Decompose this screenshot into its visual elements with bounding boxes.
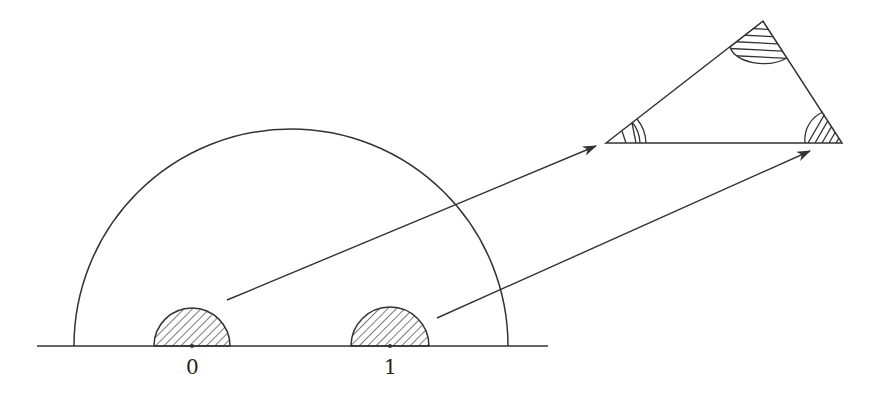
arrow-to-right-vertex bbox=[437, 151, 810, 318]
large-semicircle bbox=[74, 129, 508, 346]
left-angle-marker bbox=[622, 119, 646, 143]
label-zero: 0 bbox=[186, 355, 199, 379]
arrow-to-left-vertex bbox=[227, 146, 596, 300]
diagram-svg: 0 1 bbox=[0, 0, 876, 399]
top-angle-marker bbox=[700, 21, 820, 64]
diagram-canvas: 0 1 bbox=[0, 0, 876, 399]
semicircle-zero bbox=[154, 308, 230, 348]
semicircle-one bbox=[351, 307, 429, 348]
label-one: 1 bbox=[384, 355, 397, 379]
triangle bbox=[606, 21, 858, 143]
right-angle-marker bbox=[805, 105, 858, 143]
